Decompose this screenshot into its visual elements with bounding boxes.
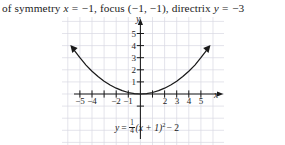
- caption-directrix-value: −3: [232, 2, 244, 14]
- equation-annotation: y=14(x + 1)2− 2: [82, 120, 212, 136]
- equation-equals: =: [119, 122, 128, 133]
- y-tick-label-5: 5: [126, 29, 136, 39]
- curve-arrowhead-left: [70, 45, 77, 53]
- caption-text: of symmetry x = −1, focus (−1, −1), dire…: [2, 1, 283, 17]
- x-tick-label-3: 3: [171, 96, 183, 106]
- caption-prefix: of symmetry: [2, 2, 63, 14]
- y-tick-label-2: 2: [126, 65, 136, 75]
- x-tick-label-4: 4: [183, 96, 195, 106]
- caption-focus-point: (−1, −1),: [128, 2, 172, 14]
- x-tick-label-5: 5: [195, 96, 207, 106]
- x-axis-label: x: [214, 90, 218, 100]
- caption-axis-value: −1,: [82, 2, 100, 14]
- equation-fraction: 14: [129, 120, 135, 136]
- y-axis-label: y: [136, 14, 140, 24]
- equation-binomial: (x + 1): [135, 122, 162, 133]
- y-tick-label-1: 1: [126, 77, 136, 87]
- caption-directrix-word: directrix: [172, 2, 214, 14]
- equation-constant: − 2: [165, 122, 179, 133]
- x-tick-label--2: −2: [110, 96, 122, 106]
- x-tick-label--1: −1: [122, 96, 134, 106]
- x-tick-label--4: −4: [86, 96, 98, 106]
- caption-equals-1: =: [69, 2, 82, 14]
- equation-fraction-denominator: 4: [129, 127, 135, 135]
- equation-fraction-numerator: 1: [129, 120, 135, 127]
- parabola-figure: of symmetry x = −1, focus (−1, −1), dire…: [0, 0, 285, 145]
- x-tick-label-2: 2: [159, 96, 171, 106]
- caption-focus-word: focus: [100, 2, 128, 14]
- caption-equals-2: =: [219, 2, 232, 14]
- x-tick-label--5: −5: [74, 96, 86, 106]
- y-tick-label-4: 4: [126, 41, 136, 51]
- coordinate-plot: y x −5 −4 −2 −1 2 3 4 5 1 2 3 4 5 y=14(x…: [62, 17, 224, 145]
- curve-arrowhead-right: [203, 45, 210, 53]
- y-tick-label-3: 3: [126, 53, 136, 63]
